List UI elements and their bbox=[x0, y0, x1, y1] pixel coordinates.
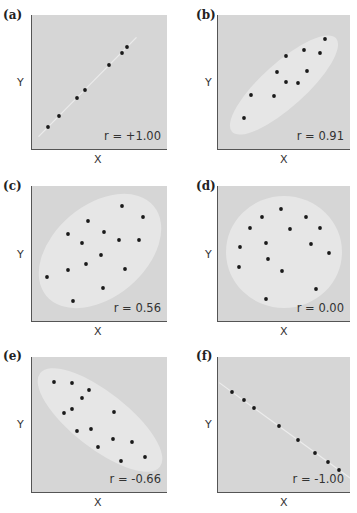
x-axis-label: X bbox=[94, 153, 102, 166]
data-point bbox=[284, 80, 288, 84]
data-point bbox=[70, 407, 74, 411]
data-point bbox=[130, 440, 134, 444]
data-point bbox=[99, 253, 103, 257]
panel-label: (d) bbox=[196, 179, 216, 193]
data-point bbox=[120, 204, 124, 208]
data-point bbox=[87, 388, 91, 392]
data-point bbox=[252, 406, 256, 410]
data-point bbox=[296, 438, 300, 442]
data-point bbox=[288, 227, 292, 231]
x-axis-label: X bbox=[280, 153, 288, 166]
data-point bbox=[66, 268, 70, 272]
data-point bbox=[86, 219, 90, 223]
data-point bbox=[280, 269, 284, 273]
data-point bbox=[249, 93, 253, 97]
data-point bbox=[83, 88, 87, 92]
y-axis-label: Y bbox=[17, 76, 24, 89]
data-point bbox=[137, 238, 141, 242]
data-point bbox=[123, 267, 127, 271]
data-point bbox=[107, 63, 111, 67]
data-point bbox=[266, 257, 270, 261]
panel-label: (e) bbox=[3, 349, 22, 363]
data-point bbox=[141, 215, 145, 219]
data-point bbox=[260, 215, 264, 219]
y-axis-label: Y bbox=[205, 418, 212, 431]
data-point bbox=[279, 207, 283, 211]
data-point bbox=[238, 245, 242, 249]
data-point bbox=[111, 437, 115, 441]
y-axis-label: Y bbox=[205, 248, 212, 261]
data-point bbox=[102, 230, 106, 234]
data-point bbox=[143, 455, 147, 459]
data-point bbox=[230, 390, 234, 394]
scatter-plot-d: r = 0.00 bbox=[217, 186, 350, 322]
data-point bbox=[80, 241, 84, 245]
data-point bbox=[264, 297, 268, 301]
data-point bbox=[237, 265, 241, 269]
data-point bbox=[46, 125, 50, 129]
data-point bbox=[117, 238, 121, 242]
data-point bbox=[70, 381, 74, 385]
data-point bbox=[71, 299, 75, 303]
r-value-annotation: r = 0.91 bbox=[297, 129, 344, 143]
data-point bbox=[264, 241, 268, 245]
r-value-annotation: r = -0.66 bbox=[110, 472, 161, 486]
data-point bbox=[66, 232, 70, 236]
panel-label: (a) bbox=[3, 8, 22, 22]
data-point bbox=[89, 427, 93, 431]
panel-label: (f) bbox=[196, 349, 213, 363]
data-point bbox=[284, 54, 288, 58]
scatter-plot-a: r = +1.00 bbox=[31, 15, 167, 150]
data-point bbox=[327, 251, 331, 255]
data-point bbox=[52, 380, 56, 384]
scatter-plot-b: r = 0.91 bbox=[217, 15, 350, 150]
data-point bbox=[62, 411, 66, 415]
x-axis-label: X bbox=[94, 496, 102, 509]
data-point bbox=[277, 424, 281, 428]
data-point bbox=[75, 96, 79, 100]
r-value-annotation: r = 0.56 bbox=[114, 301, 161, 315]
y-axis-label: Y bbox=[17, 248, 24, 261]
data-point bbox=[326, 460, 330, 464]
r-value-annotation: r = -1.00 bbox=[293, 472, 344, 486]
data-point bbox=[119, 459, 123, 463]
data-point bbox=[305, 69, 309, 73]
data-point bbox=[242, 116, 246, 120]
y-axis-label: Y bbox=[205, 76, 212, 89]
data-point bbox=[275, 70, 279, 74]
data-point bbox=[125, 45, 129, 49]
data-point bbox=[314, 287, 318, 291]
data-point bbox=[112, 410, 116, 414]
data-point bbox=[80, 396, 84, 400]
data-point bbox=[84, 262, 88, 266]
scatter-plot-c: r = 0.56 bbox=[31, 186, 167, 322]
data-point bbox=[101, 286, 105, 290]
data-point bbox=[323, 37, 327, 41]
y-axis-label: Y bbox=[17, 418, 24, 431]
r-value-annotation: r = 0.00 bbox=[297, 301, 344, 315]
data-point bbox=[57, 114, 61, 118]
x-axis-label: X bbox=[280, 325, 288, 338]
panel-label: (c) bbox=[3, 179, 22, 193]
data-point bbox=[302, 48, 306, 52]
data-point bbox=[318, 226, 322, 230]
data-point bbox=[304, 215, 308, 219]
data-point bbox=[45, 275, 49, 279]
data-point bbox=[248, 226, 252, 230]
scatter-plot-e: r = -0.66 bbox=[31, 357, 167, 493]
data-point bbox=[309, 242, 313, 246]
x-axis-label: X bbox=[280, 496, 288, 509]
data-point bbox=[313, 451, 317, 455]
data-point bbox=[120, 51, 124, 55]
data-point bbox=[272, 94, 276, 98]
scatter-plot-f: r = -1.00 bbox=[217, 357, 350, 493]
data-point bbox=[75, 429, 79, 433]
data-point bbox=[242, 398, 246, 402]
panel-label: (b) bbox=[196, 8, 216, 22]
data-point bbox=[318, 51, 322, 55]
data-point bbox=[296, 81, 300, 85]
x-axis-label: X bbox=[94, 325, 102, 338]
data-point bbox=[96, 445, 100, 449]
r-value-annotation: r = +1.00 bbox=[104, 129, 161, 143]
